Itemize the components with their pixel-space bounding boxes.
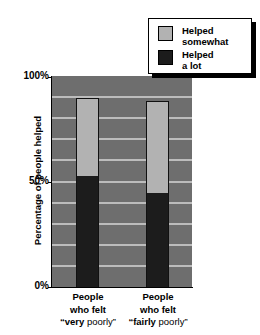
x-label-line1: People bbox=[115, 291, 201, 304]
plot-area bbox=[52, 76, 192, 287]
bar-segment-helped-somewhat-fairly-poorly bbox=[147, 102, 168, 193]
y-tick-label-100: 100% bbox=[5, 71, 49, 81]
gridline-90 bbox=[52, 96, 192, 98]
x-label-fairly-poorly: People who felt “fairly poorly” bbox=[115, 291, 201, 329]
x-label-emphasis: very bbox=[65, 316, 85, 327]
gridline-50 bbox=[52, 181, 192, 183]
stacked-bar-chart: Percentage of people helped 100% 50% 0% bbox=[0, 0, 260, 335]
x-axis-line bbox=[51, 287, 193, 288]
gridline-30 bbox=[52, 223, 192, 225]
bar-fairly-poorly bbox=[146, 101, 169, 287]
legend-label-line1: Helped bbox=[182, 49, 214, 60]
x-axis-labels: People who felt “very poorly” People who… bbox=[52, 291, 252, 335]
x-label-rest: poorly” bbox=[84, 316, 116, 327]
gridline-10 bbox=[52, 265, 192, 267]
legend-label-line2: a lot bbox=[182, 60, 214, 71]
y-tick-label-0: 0% bbox=[5, 281, 49, 291]
bar-segment-helped-a-lot-very-poorly bbox=[77, 176, 98, 287]
bar-very-poorly bbox=[76, 98, 99, 287]
bar-segment-helped-a-lot-fairly-poorly bbox=[147, 193, 168, 287]
legend-swatch-icon-helped-a-lot bbox=[158, 50, 173, 65]
x-label-emphasis: fairly bbox=[133, 316, 156, 327]
bar-segment-helped-somewhat-very-poorly bbox=[77, 99, 98, 176]
legend-swatch-icon-helped-somewhat bbox=[158, 26, 173, 41]
gridline-60 bbox=[52, 159, 192, 161]
legend-item-helped-a-lot: Helped a lot bbox=[158, 49, 214, 71]
legend-label-line1: Helped bbox=[182, 25, 214, 36]
gridline-40 bbox=[52, 202, 192, 204]
legend-label-line2: somewhat bbox=[182, 36, 228, 47]
legend: Helped somewhat Helped a lot bbox=[148, 18, 252, 74]
gridline-20 bbox=[52, 244, 192, 246]
gridline-80 bbox=[52, 117, 192, 119]
y-axis-ticks: 100% 50% 0% bbox=[0, 0, 49, 335]
legend-label-helped-a-lot: Helped a lot bbox=[182, 49, 214, 71]
x-label-line2: who felt bbox=[115, 304, 201, 317]
legend-label-helped-somewhat: Helped somewhat bbox=[182, 25, 228, 47]
y-tick-label-50: 50% bbox=[5, 176, 49, 186]
x-label-rest: poorly” bbox=[156, 316, 188, 327]
x-label-line3: “fairly poorly” bbox=[115, 316, 201, 329]
gridline-70 bbox=[52, 138, 192, 140]
legend-item-helped-somewhat: Helped somewhat bbox=[158, 25, 228, 47]
